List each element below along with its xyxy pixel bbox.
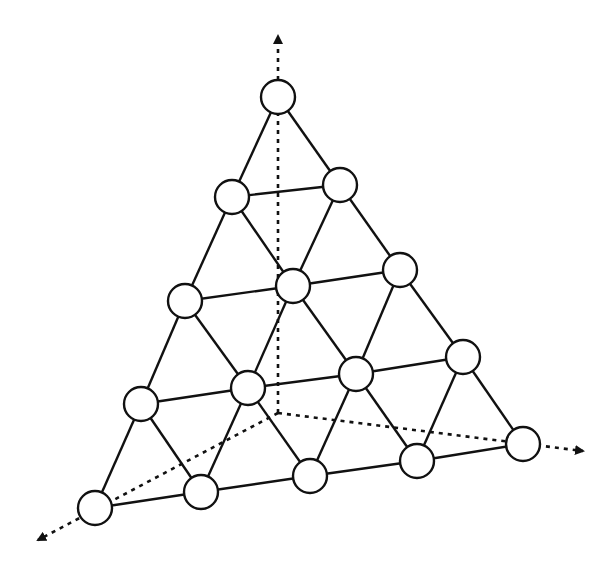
lattice-node <box>446 340 480 374</box>
lattice-node <box>400 444 434 478</box>
lattice-node <box>383 253 417 287</box>
axis-left <box>38 413 278 540</box>
lattice-node <box>506 427 540 461</box>
lattice-edges <box>95 97 523 508</box>
lattice-node <box>168 284 202 318</box>
lattice-node <box>323 168 357 202</box>
lattice-node <box>124 387 158 421</box>
lattice-node <box>293 459 327 493</box>
lattice-node <box>339 357 373 391</box>
lattice-node <box>215 180 249 214</box>
triangular-lattice-diagram <box>0 0 614 569</box>
lattice-node <box>261 80 295 114</box>
lattice-node <box>231 371 265 405</box>
lattice-nodes <box>78 80 540 525</box>
lattice-node <box>184 475 218 509</box>
lattice-node <box>276 269 310 303</box>
lattice-node <box>78 491 112 525</box>
